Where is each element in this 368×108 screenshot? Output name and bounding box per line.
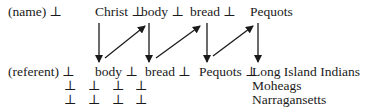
arrows-layer <box>0 0 368 108</box>
diagonal-arrow-pequots <box>213 26 253 56</box>
diagonal-arrow-body <box>105 26 145 58</box>
diagonal-arrow-bread <box>156 26 200 58</box>
